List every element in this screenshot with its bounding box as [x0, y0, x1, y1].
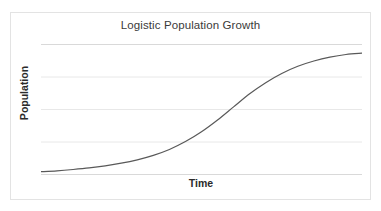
y-axis-label: Population	[18, 58, 30, 128]
gridlines-group	[41, 45, 362, 175]
logistic-growth-plot	[41, 44, 362, 175]
chart-title: Logistic Population Growth	[11, 19, 370, 31]
logistic-curve	[41, 53, 362, 172]
x-axis-label: Time	[41, 177, 361, 189]
plot-area	[41, 44, 362, 175]
chart-frame: Logistic Population Growth Population Ti…	[10, 12, 371, 200]
